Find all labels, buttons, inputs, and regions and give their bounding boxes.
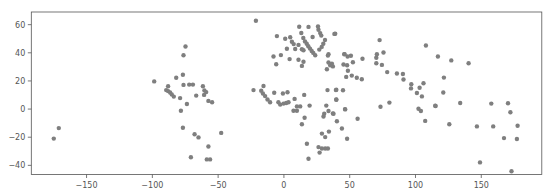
data-point <box>395 71 399 75</box>
data-point <box>327 129 331 133</box>
data-point <box>449 58 453 62</box>
data-point <box>349 54 353 58</box>
data-point <box>283 37 287 41</box>
data-point <box>326 146 330 150</box>
data-point <box>196 135 200 139</box>
data-point <box>319 33 323 37</box>
data-point <box>317 150 321 154</box>
data-point <box>287 57 291 61</box>
data-point <box>341 88 345 92</box>
y-tick-label: 40 <box>15 49 25 58</box>
y-tick-label: 60 <box>15 21 25 30</box>
data-point <box>401 72 405 76</box>
x-tick-label: 100 <box>408 181 423 190</box>
data-point <box>275 34 279 38</box>
data-point <box>317 47 321 51</box>
data-point <box>292 42 296 46</box>
data-point <box>491 124 495 128</box>
data-point <box>409 86 413 90</box>
data-point <box>179 109 183 113</box>
data-point <box>335 119 339 123</box>
data-point <box>297 25 301 29</box>
data-point <box>285 47 289 51</box>
data-point <box>194 93 198 97</box>
points-layer <box>52 19 520 174</box>
data-point <box>489 101 493 105</box>
data-point <box>293 47 297 51</box>
data-point <box>178 96 182 100</box>
y-tick-label: 0 <box>20 105 25 114</box>
data-point <box>181 73 185 77</box>
data-point <box>330 62 334 66</box>
y-tick-label: 20 <box>15 77 25 86</box>
data-point <box>325 67 329 71</box>
data-point <box>174 76 178 80</box>
data-point <box>502 136 506 140</box>
data-point <box>506 101 510 105</box>
data-point <box>342 52 346 56</box>
data-point <box>271 54 275 58</box>
data-point <box>344 75 348 79</box>
data-point <box>201 84 205 88</box>
x-tick-label: −100 <box>141 181 163 190</box>
x-tick-label: 150 <box>474 181 489 190</box>
x-tick-label: 0 <box>281 181 286 190</box>
data-point <box>310 35 314 39</box>
data-point <box>332 32 336 36</box>
data-point <box>296 58 300 62</box>
data-point <box>300 122 304 126</box>
data-point <box>377 38 381 42</box>
data-point <box>360 77 364 81</box>
y-axis: −40−200204060 <box>8 21 31 171</box>
data-point <box>351 60 355 64</box>
data-point <box>355 117 359 121</box>
data-point <box>417 86 421 90</box>
data-point <box>301 48 305 52</box>
data-point <box>261 84 265 88</box>
data-point <box>436 54 440 58</box>
data-point <box>475 124 479 128</box>
data-point <box>380 63 384 67</box>
data-point <box>387 100 391 104</box>
data-point <box>360 57 364 61</box>
data-point <box>301 60 305 64</box>
data-point <box>478 160 482 164</box>
data-point <box>341 62 345 66</box>
data-point <box>298 104 302 108</box>
data-point <box>343 107 347 111</box>
x-tick-label: −50 <box>210 181 227 190</box>
data-point <box>324 103 328 107</box>
data-point <box>285 90 289 94</box>
data-point <box>286 100 290 104</box>
data-point <box>420 94 424 98</box>
data-point <box>409 82 413 86</box>
data-point <box>306 25 310 29</box>
data-point <box>345 137 349 141</box>
data-point <box>279 53 283 57</box>
data-point <box>254 19 258 23</box>
y-tick-label: −20 <box>8 133 25 142</box>
data-point <box>52 136 56 140</box>
data-point <box>419 109 423 113</box>
data-point <box>515 137 519 141</box>
data-point <box>302 93 306 97</box>
data-point <box>191 82 195 86</box>
y-tick-label: −40 <box>8 161 25 170</box>
data-point <box>288 35 292 39</box>
data-point <box>374 61 378 65</box>
data-point <box>334 88 338 92</box>
data-point <box>508 110 512 114</box>
data-point <box>355 76 359 80</box>
data-point <box>181 53 185 57</box>
data-point <box>401 77 405 81</box>
data-point <box>433 104 437 108</box>
data-point <box>374 56 378 60</box>
data-point <box>326 53 330 57</box>
data-point <box>181 83 185 87</box>
data-point <box>307 103 311 107</box>
data-point <box>192 132 196 136</box>
x-axis: −150−100−50050100150 <box>76 175 489 190</box>
x-tick-label: −150 <box>76 181 98 190</box>
data-point <box>334 98 338 102</box>
data-point <box>350 73 354 77</box>
